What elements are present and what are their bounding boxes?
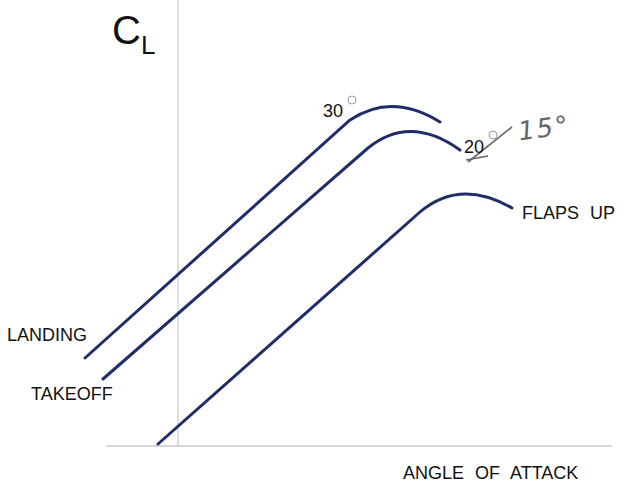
takeoff-label: TAKEOFF — [31, 384, 113, 405]
lift-curve-chart — [0, 0, 634, 484]
degree-icon — [489, 131, 497, 139]
flaps-up-label: FLAPS UP — [522, 203, 615, 224]
flaps-up-curve — [158, 194, 512, 444]
y-axis-label: CL — [112, 8, 155, 61]
flap-30-label: 30 — [323, 101, 343, 122]
landing-label: LANDING — [7, 325, 87, 346]
x-axis-label: ANGLE OF ATTACK — [403, 463, 578, 484]
flap-20-label: 20 — [464, 137, 484, 158]
degree-icon — [348, 96, 356, 104]
takeoff-curve — [103, 131, 460, 379]
landing-curve — [85, 106, 440, 358]
